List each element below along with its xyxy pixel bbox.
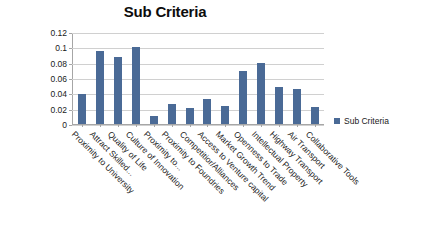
- gridline: [72, 125, 324, 126]
- bar-series: [73, 33, 324, 124]
- chart-container: Sub Criteria 00.020.040.060.080.10.12 Pr…: [0, 0, 426, 228]
- bar-slot: [91, 33, 109, 124]
- bar-slot: [145, 33, 163, 124]
- bar-slot: [306, 33, 324, 124]
- x-axis-tick: [243, 124, 244, 127]
- bar[interactable]: [114, 57, 122, 124]
- y-axis-tick: [69, 110, 72, 111]
- x-axis-tick: [82, 124, 83, 127]
- x-axis-tick: [279, 124, 280, 127]
- bar[interactable]: [239, 71, 247, 124]
- legend-label: Sub Criteria: [344, 116, 389, 126]
- bar[interactable]: [186, 108, 194, 124]
- x-axis-tick: [190, 124, 191, 127]
- x-axis-tick: [207, 124, 208, 127]
- x-axis-tick: [136, 124, 137, 127]
- x-axis-tick: [100, 124, 101, 127]
- legend-swatch-icon: [334, 118, 340, 124]
- y-axis-tick: [69, 125, 72, 126]
- y-axis-tick: [69, 33, 72, 34]
- bar-slot: [199, 33, 217, 124]
- x-axis-category-labels: Proximity to UniversityAttract Skilled..…: [72, 129, 332, 228]
- bar-slot: [252, 33, 270, 124]
- plot-area: 00.020.040.060.080.10.12: [72, 33, 324, 125]
- y-axis-label: 0.02: [50, 105, 67, 115]
- y-axis-tick: [69, 79, 72, 80]
- y-axis-label: 0.12: [50, 28, 67, 38]
- x-axis-tick: [315, 124, 316, 127]
- y-axis-label: 0: [62, 120, 67, 130]
- bar-slot: [181, 33, 199, 124]
- bar-slot: [216, 33, 234, 124]
- y-axis-label: 0.04: [50, 89, 67, 99]
- bar[interactable]: [168, 104, 176, 124]
- x-axis-tick: [297, 124, 298, 127]
- bar-slot: [288, 33, 306, 124]
- bar[interactable]: [257, 63, 265, 124]
- y-axis-label: 0.08: [50, 59, 67, 69]
- bar-slot: [127, 33, 145, 124]
- y-axis-label: 0.06: [50, 74, 67, 84]
- bar[interactable]: [150, 116, 158, 124]
- bar-slot: [163, 33, 181, 124]
- chart-legend: Sub Criteria: [334, 116, 389, 126]
- chart-title: Sub Criteria: [0, 3, 330, 20]
- y-axis-tick: [69, 64, 72, 65]
- bar[interactable]: [96, 51, 104, 124]
- x-axis-tick: [172, 124, 173, 127]
- bar[interactable]: [275, 87, 283, 124]
- x-axis-tick: [154, 124, 155, 127]
- bar[interactable]: [293, 89, 301, 124]
- x-axis-tick: [118, 124, 119, 127]
- x-axis-tick: [261, 124, 262, 127]
- y-axis-label: 0.1: [55, 43, 67, 53]
- bar[interactable]: [221, 106, 229, 124]
- bar-slot: [270, 33, 288, 124]
- y-axis-tick: [69, 48, 72, 49]
- bar[interactable]: [78, 94, 86, 124]
- y-axis-tick: [69, 94, 72, 95]
- x-axis-tick: [225, 124, 226, 127]
- bar[interactable]: [132, 47, 140, 124]
- bar-slot: [109, 33, 127, 124]
- bar-slot: [234, 33, 252, 124]
- bar[interactable]: [311, 107, 319, 124]
- bar-slot: [73, 33, 91, 124]
- bar[interactable]: [203, 99, 211, 124]
